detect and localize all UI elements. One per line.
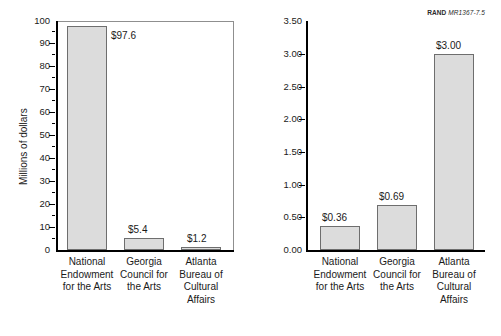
y-tick-label-left-0: 0 — [20, 245, 50, 255]
y-tick-major-left-60 — [49, 112, 55, 113]
y-tick-label-right-1.00: 1.00 — [260, 180, 302, 190]
cat-line: Bureau of — [172, 269, 230, 282]
y-tick-label-right-0.50: 0.50 — [260, 212, 302, 222]
y-tick-major-left-90 — [49, 43, 55, 44]
y-tick-label-right-2.00: 2.00 — [260, 114, 302, 124]
cat-line: for the Arts — [310, 281, 370, 294]
bar-value-left-georgia-council: $5.4 — [128, 224, 147, 235]
cat-line: Atlanta — [172, 256, 230, 269]
y-tick-major-right-1.00 — [299, 185, 305, 186]
y-axis-line-left — [56, 21, 58, 252]
y-tick-major-right-3.00 — [299, 54, 305, 55]
y-tick-label-right-3.00: 3.00 — [260, 49, 302, 59]
cat-line: the Arts — [366, 281, 428, 294]
x-category-label-right-georgia-council: Georgia Council for the Arts — [366, 256, 428, 294]
bar-left-georgia-council[interactable] — [124, 238, 164, 250]
bar-right-national-endowment[interactable] — [320, 226, 360, 250]
y-tick-minor-left-55 — [52, 123, 55, 124]
y-tick-minor-left-75 — [52, 77, 55, 78]
x-category-label-right-national-endowment: National Endowment for the Arts — [310, 256, 370, 294]
y-tick-minor-left-65 — [52, 100, 55, 101]
y-tick-minor-left-25 — [52, 192, 55, 193]
y-tick-label-left-100: 100 — [20, 16, 50, 26]
cat-line: National — [57, 256, 117, 269]
y-tick-major-right-2.00 — [299, 119, 305, 120]
y-tick-minor-left-5 — [52, 238, 55, 239]
y-tick-minor-left-95 — [52, 31, 55, 32]
x-category-label-left-georgia-council: Georgia Council for the Arts — [113, 256, 175, 294]
y-tick-major-left-10 — [49, 227, 55, 228]
cat-line: Cultural — [172, 281, 230, 294]
y-tick-label-left-70: 70 — [20, 84, 50, 94]
bar-right-atlanta-bureau[interactable] — [434, 54, 474, 250]
y-tick-label-left-30: 30 — [20, 176, 50, 186]
bar-value-right-georgia-council: $0.69 — [379, 191, 404, 202]
cat-line: for the Arts — [57, 281, 117, 294]
y-tick-label-left-20: 20 — [20, 199, 50, 209]
y-tick-minor-left-15 — [52, 215, 55, 216]
bar-value-right-national-endowment: $0.36 — [322, 212, 347, 223]
cat-line: Georgia — [366, 256, 428, 269]
cat-line: National — [310, 256, 370, 269]
chart-panel-right: RAND MR1367-7.5 Dollars per capita 0.00 … — [250, 0, 501, 336]
y-tick-label-right-0.00: 0.00 — [260, 245, 302, 255]
cat-line: Georgia — [113, 256, 175, 269]
y-tick-label-left-40: 40 — [20, 153, 50, 163]
rand-source-id: RAND MR1367-7.5 — [427, 9, 485, 16]
y-tick-major-left-20 — [49, 204, 55, 205]
y-tick-major-right-2.50 — [299, 87, 305, 88]
x-category-label-left-atlanta-bureau: Atlanta Bureau of Cultural Affairs — [172, 256, 230, 306]
bar-value-left-atlanta-bureau: $1.2 — [187, 233, 206, 244]
bar-value-left-national-endowment: $97.6 — [111, 30, 136, 41]
y-tick-major-left-80 — [49, 66, 55, 67]
y-tick-major-left-70 — [49, 89, 55, 90]
y-tick-major-right-0.50 — [299, 217, 305, 218]
y-tick-major-right-1.50 — [299, 152, 305, 153]
y-tick-minor-left-45 — [52, 146, 55, 147]
x-axis-line-right — [306, 250, 485, 252]
y-tick-label-left-50: 50 — [20, 130, 50, 140]
cat-line: Council for — [113, 269, 175, 282]
y-axis-line-right — [306, 21, 308, 252]
y-tick-label-right-3.50: 3.50 — [260, 16, 302, 26]
y-tick-label-left-90: 90 — [20, 38, 50, 48]
cat-line: Affairs — [425, 294, 483, 307]
y-tick-label-left-10: 10 — [20, 222, 50, 232]
y-tick-label-left-60: 60 — [20, 107, 50, 117]
y-tick-minor-left-85 — [52, 54, 55, 55]
cat-line: Endowment — [57, 269, 117, 282]
y-tick-major-left-30 — [49, 181, 55, 182]
y-tick-label-right-1.50: 1.50 — [260, 147, 302, 157]
cat-line: Affairs — [172, 294, 230, 307]
rand-org-label: RAND — [427, 9, 446, 16]
y-axis-title-left: Millions of dollars — [18, 108, 29, 185]
cat-line: Atlanta — [425, 256, 483, 269]
cat-line: Bureau of — [425, 269, 483, 282]
y-tick-minor-left-35 — [52, 169, 55, 170]
chart-panel-left: Millions of dollars 0 10 20 30 40 50 60 … — [0, 0, 250, 336]
bar-left-national-endowment[interactable] — [67, 26, 107, 250]
y-tick-label-right-2.50: 2.50 — [260, 82, 302, 92]
cat-line: Cultural — [425, 281, 483, 294]
cat-line: Council for — [366, 269, 428, 282]
x-category-label-right-atlanta-bureau: Atlanta Bureau of Cultural Affairs — [425, 256, 483, 306]
x-category-label-left-national-endowment: National Endowment for the Arts — [57, 256, 117, 294]
bar-right-georgia-council[interactable] — [377, 205, 417, 250]
y-tick-label-left-80: 80 — [20, 61, 50, 71]
y-tick-major-left-40 — [49, 158, 55, 159]
cat-line: Endowment — [310, 269, 370, 282]
bar-value-right-atlanta-bureau: $3.00 — [436, 40, 461, 51]
rand-document-number: MR1367-7.5 — [448, 9, 485, 16]
cat-line: the Arts — [113, 281, 175, 294]
y-tick-major-left-50 — [49, 135, 55, 136]
x-axis-line-left — [56, 250, 234, 252]
figure-two-bar-charts: Millions of dollars 0 10 20 30 40 50 60 … — [0, 0, 501, 336]
